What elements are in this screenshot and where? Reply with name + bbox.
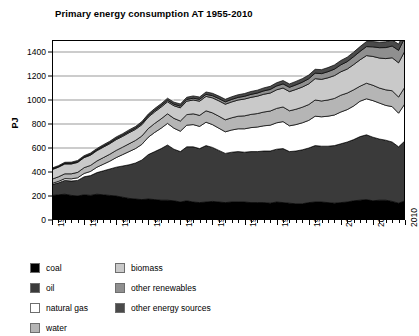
x-tick-mark <box>52 220 53 225</box>
x-tick-label: 1995 <box>312 208 322 227</box>
x-tick-label: 1955 <box>56 208 66 227</box>
y-tick-label: 200 <box>14 191 46 201</box>
legend-swatch-natural-gas <box>30 303 40 313</box>
x-tick-mark <box>84 220 85 225</box>
legend-item[interactable]: biomass <box>115 258 211 278</box>
x-tick-mark <box>78 220 79 223</box>
x-tick-mark <box>399 220 400 223</box>
y-tick-mark <box>48 148 52 149</box>
legend-item[interactable]: other renewables <box>115 278 211 298</box>
y-tick-label: 1400 <box>14 47 46 57</box>
x-tick-mark <box>110 220 111 223</box>
x-tick-mark <box>103 220 104 223</box>
x-tick-mark <box>200 220 201 223</box>
legend-label: natural gas <box>46 303 88 313</box>
y-tick-label: 1200 <box>14 71 46 81</box>
legend-swatch-water <box>30 323 40 333</box>
x-tick-mark <box>238 220 239 223</box>
legend-swatch-other-energy-sources <box>115 303 125 313</box>
x-tick-label: 2005 <box>376 208 386 227</box>
y-tick-mark <box>48 76 52 77</box>
x-tick-label: 1970 <box>152 208 162 227</box>
y-tick-label: 400 <box>14 167 46 177</box>
x-tick-mark <box>174 220 175 223</box>
legend-column-2: biomassother renewablesother energy sour… <box>115 258 211 318</box>
x-tick-label: 2000 <box>344 208 354 227</box>
x-tick-label: 2010 <box>409 208 419 227</box>
x-tick-mark <box>180 220 181 225</box>
x-tick-mark <box>232 220 233 223</box>
x-tick-mark <box>264 220 265 223</box>
x-tick-mark <box>135 220 136 223</box>
x-tick-label: 1985 <box>248 208 258 227</box>
x-tick-mark <box>71 220 72 223</box>
legend-item[interactable]: oil <box>30 278 88 298</box>
legend-item[interactable]: water <box>30 318 88 336</box>
x-tick-label: 1960 <box>88 208 98 227</box>
legend-swatch-coal <box>30 263 40 273</box>
x-tick-mark <box>168 220 169 223</box>
legend-item[interactable]: natural gas <box>30 298 88 318</box>
x-tick-mark <box>373 220 374 225</box>
x-tick-mark <box>270 220 271 223</box>
y-tick-mark <box>48 52 52 53</box>
y-tick-label: 1000 <box>14 95 46 105</box>
legend-label: coal <box>46 263 62 273</box>
x-tick-mark <box>277 220 278 225</box>
x-tick-mark <box>366 220 367 223</box>
x-tick-mark <box>212 220 213 225</box>
x-tick-mark <box>309 220 310 225</box>
y-tick-label: 600 <box>14 143 46 153</box>
x-tick-mark <box>142 220 143 223</box>
legend-item[interactable]: other energy sources <box>115 298 211 318</box>
x-tick-mark <box>341 220 342 225</box>
x-tick-mark <box>206 220 207 223</box>
legend-label: biomass <box>131 263 163 273</box>
x-tick-mark <box>116 220 117 225</box>
x-tick-mark <box>360 220 361 223</box>
x-tick-mark <box>334 220 335 223</box>
y-tick-mark <box>48 124 52 125</box>
x-tick-mark <box>302 220 303 223</box>
legend-column-1: coaloilnatural gaswater <box>30 258 88 336</box>
x-tick-label: 1975 <box>184 208 194 227</box>
legend-label: other energy sources <box>131 303 211 313</box>
legend-label: oil <box>46 283 55 293</box>
chart-title: Primary energy consumption AT 1955-2010 <box>55 8 253 19</box>
x-tick-label: 1980 <box>216 208 226 227</box>
legend-swatch-biomass <box>115 263 125 273</box>
x-tick-label: 1990 <box>280 208 290 227</box>
legend-label: water <box>46 323 67 333</box>
x-tick-label: 1965 <box>120 208 130 227</box>
y-tick-label: 0 <box>14 215 46 225</box>
y-tick-mark <box>48 100 52 101</box>
x-tick-mark <box>245 220 246 225</box>
plot-area <box>52 40 405 220</box>
y-tick-mark <box>48 172 52 173</box>
legend-label: other renewables <box>131 283 196 293</box>
stacked-area-plot <box>52 40 405 220</box>
legend-swatch-other-renewables <box>115 283 125 293</box>
x-tick-mark <box>328 220 329 223</box>
legend-item[interactable]: coal <box>30 258 88 278</box>
x-tick-mark <box>148 220 149 225</box>
y-tick-label: 800 <box>14 119 46 129</box>
x-tick-mark <box>392 220 393 223</box>
y-tick-mark <box>48 196 52 197</box>
x-tick-mark <box>405 220 406 225</box>
x-tick-mark <box>296 220 297 223</box>
legend-swatch-oil <box>30 283 40 293</box>
